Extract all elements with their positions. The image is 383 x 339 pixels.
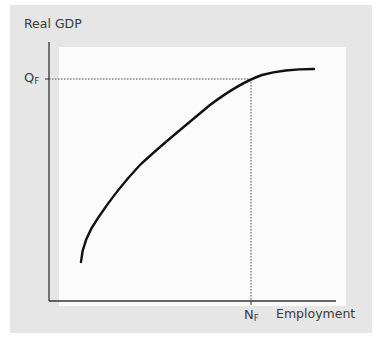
y-axis-label: Real GDP (24, 18, 82, 31)
n-f-subscript: F (254, 313, 259, 323)
q-f-main: Q (24, 70, 34, 85)
x-axis-label: Employment (276, 308, 355, 321)
q-f-subscript: F (34, 76, 39, 86)
production-function-chart (0, 0, 383, 339)
production-function-curve (81, 69, 314, 262)
q-f-label: QF (24, 71, 39, 86)
n-f-main: N (244, 307, 254, 322)
n-f-label: NF (244, 308, 259, 323)
